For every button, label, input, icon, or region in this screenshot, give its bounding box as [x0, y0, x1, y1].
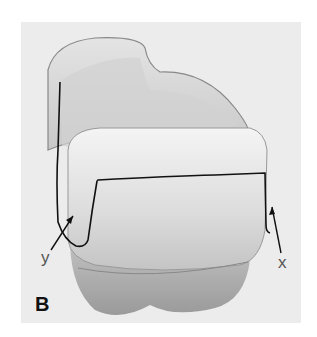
tooth-illustration	[0, 0, 317, 337]
panel-label: B	[35, 294, 49, 314]
label-x: x	[278, 254, 287, 271]
arrow-x-head	[269, 207, 275, 215]
buccal-crown	[68, 128, 267, 270]
label-y: y	[41, 249, 50, 266]
